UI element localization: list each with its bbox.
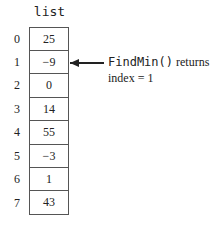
- array-box: 25 −9 0 14 55 −3 1 43: [29, 27, 69, 215]
- array-cell: −9: [29, 51, 69, 74]
- index-label: 7: [10, 196, 24, 211]
- pointer-arrow: [70, 62, 104, 64]
- index-label: 1: [10, 55, 24, 70]
- array-cell: 43: [29, 191, 69, 214]
- annotation-result: index = 1: [108, 71, 153, 86]
- array-cell: −3: [29, 145, 69, 168]
- array-cell: 1: [29, 168, 69, 191]
- array-cell: 14: [29, 98, 69, 121]
- array-cell: 55: [29, 121, 69, 144]
- index-label: 5: [10, 149, 24, 164]
- index-label: 0: [10, 32, 24, 47]
- array-cell: 0: [29, 74, 69, 97]
- array-name: list: [29, 4, 70, 19]
- annotation-line-1: FindMin() returns: [108, 55, 209, 70]
- function-name: FindMin(): [108, 55, 173, 69]
- index-label: 2: [10, 78, 24, 93]
- index-label: 4: [10, 125, 24, 140]
- index-label: 6: [10, 172, 24, 187]
- array-cell: 25: [29, 27, 69, 51]
- returns-text: returns: [176, 55, 209, 69]
- index-label: 3: [10, 102, 24, 117]
